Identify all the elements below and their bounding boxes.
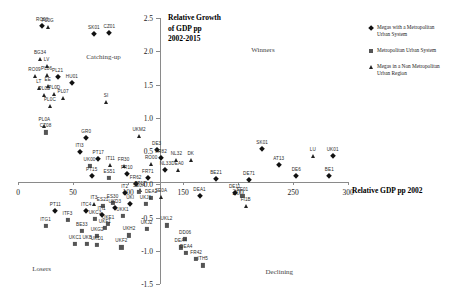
y-axis-title-line: of GDP pp	[168, 24, 221, 35]
data-point-triangle	[46, 25, 50, 29]
legend-item[interactable]: Megas in a Non Metropolitan Urban Region	[368, 63, 448, 77]
data-point-label: UKC3	[89, 210, 102, 215]
data-point-diamond	[293, 173, 299, 179]
data-point-square	[73, 242, 77, 246]
data-point-label: FI1B	[241, 197, 251, 202]
data-point-label: UK01	[327, 147, 339, 152]
data-point-label: DE6	[292, 167, 301, 172]
data-point-square	[65, 218, 69, 222]
data-point-label: UKI	[126, 195, 134, 200]
data-point-label: ITC4	[81, 202, 91, 207]
data-point-square	[144, 202, 148, 206]
data-point-label: UKJ1	[140, 195, 152, 200]
data-point-diamond	[77, 149, 83, 155]
x-axis-tick-label: 150	[177, 188, 188, 197]
data-point-label: UKF2	[115, 238, 127, 243]
data-point-label: LT	[36, 79, 41, 84]
data-point-label: HU01	[66, 74, 78, 79]
x-axis-tick-label: 250	[287, 188, 298, 197]
legend-label: Megas with a Metropolitan Urban System	[377, 24, 448, 38]
data-point-diamond	[330, 153, 336, 159]
y-axis-tick-label: -1.5	[131, 280, 153, 289]
data-point-label: DK	[187, 151, 194, 156]
data-point-label: PT11	[50, 202, 61, 207]
quadrant-label: Losers	[32, 265, 51, 273]
data-point-label: SI	[104, 93, 109, 98]
x-axis-tick	[183, 182, 184, 185]
data-point-triangle	[92, 202, 96, 206]
x-axis-tick	[73, 182, 74, 185]
legend-item[interactable]: Metropolitan Urban System	[368, 47, 448, 54]
data-point-label: ITI3	[75, 143, 83, 148]
data-point-label: PL07	[58, 89, 69, 94]
data-point-diamond	[106, 30, 112, 36]
x-axis-tick	[18, 182, 19, 185]
data-point-diamond	[162, 167, 168, 173]
data-point-label: UKG2	[91, 227, 104, 232]
data-point-label: UK00	[84, 157, 96, 162]
data-point-label: SE01	[237, 187, 249, 192]
data-point-diamond	[52, 208, 58, 214]
data-point-diamond	[89, 173, 95, 179]
data-point-label: EE	[45, 77, 51, 82]
data-point-diamond	[197, 193, 203, 199]
data-point-label: PL0A	[39, 117, 51, 122]
y-axis-tick-label: 2.5	[131, 14, 153, 23]
legend-marker-square-icon	[369, 49, 373, 53]
data-point-label: UKJ2	[141, 220, 153, 225]
data-point-label: DEA2	[145, 189, 157, 194]
data-point-label: UKH2	[123, 226, 136, 231]
data-point-triangle	[137, 134, 141, 138]
data-point-label: UKM2	[132, 127, 145, 132]
y-axis-tick	[156, 184, 160, 185]
data-point-triangle	[311, 154, 315, 158]
data-point-label: AT13	[273, 156, 284, 161]
data-point-label: DEA1	[193, 187, 205, 192]
data-point-label: BE1	[325, 167, 334, 172]
data-point-square	[93, 217, 97, 221]
y-axis-tick	[156, 118, 160, 119]
data-point-diamond	[276, 162, 282, 168]
data-point-triangle	[61, 96, 65, 100]
x-axis-tick	[293, 182, 294, 185]
data-point-label: DE3	[152, 141, 161, 146]
y-axis-tick	[156, 218, 160, 219]
data-point-triangle	[189, 158, 193, 162]
data-point-square	[164, 223, 168, 227]
data-point-label: BE33	[76, 222, 88, 227]
data-point-label: UKC1	[69, 235, 82, 240]
data-point-label: DE71	[243, 171, 255, 176]
y-axis-tick	[156, 251, 160, 252]
data-point-label: ITH5	[198, 256, 208, 261]
data-point-triangle	[33, 74, 37, 78]
y-axis-tick	[156, 284, 160, 285]
data-point-square	[95, 243, 99, 247]
data-point-label: CZ01	[103, 24, 115, 29]
legend-marker-triangle-icon	[369, 65, 373, 69]
y-axis-title-line: Relative Growth	[168, 13, 221, 24]
data-point-label: ITG1	[40, 217, 51, 222]
data-point-label: PL0C	[44, 97, 56, 102]
data-point-diamond	[95, 156, 101, 162]
data-point-diamond	[39, 23, 45, 29]
data-point-square	[120, 214, 124, 218]
data-point-diamond	[213, 176, 219, 182]
data-point-label: UKF1	[99, 219, 111, 224]
y-axis-title-line: 2002-2015	[168, 34, 221, 45]
data-point-label: LU	[310, 147, 316, 152]
data-point-label: BE21	[210, 170, 222, 175]
data-point-label: UKL2	[161, 216, 173, 221]
data-point-label: IT2	[121, 184, 128, 189]
data-point-triangle	[38, 57, 42, 61]
data-point-square	[145, 227, 149, 231]
data-point-label: IT11	[106, 156, 115, 161]
data-point-triangle	[48, 104, 52, 108]
data-point-triangle	[108, 163, 112, 167]
data-point-label: FR42	[190, 250, 202, 255]
data-point-label: FR62	[130, 175, 142, 180]
data-point-label: ES21	[97, 197, 109, 202]
legend-item[interactable]: Megas with a Metropolitan Urban System	[368, 24, 448, 38]
y-axis-tick-label: 2.0	[131, 47, 153, 56]
data-point-label: PT17	[93, 150, 104, 155]
data-point-label: DEA4	[180, 244, 192, 249]
